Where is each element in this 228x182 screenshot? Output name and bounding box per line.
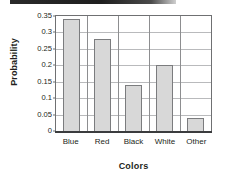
y-tick-label: 0.05 — [37, 111, 52, 119]
bar-series — [56, 16, 211, 131]
x-tick-label-black: Black — [118, 138, 149, 146]
category-divider — [149, 16, 150, 131]
category-divider — [87, 16, 88, 131]
x-tick-label-blue: Blue — [55, 138, 86, 146]
x-tick-label-red: Red — [86, 138, 117, 146]
plot-area: 00.050.10.150.20.250.30.35 — [55, 15, 212, 132]
y-tick-label: 0.25 — [37, 45, 52, 53]
bar-slot — [87, 16, 118, 131]
bar-blue — [63, 19, 81, 131]
x-axis-baseline — [55, 131, 212, 133]
bar-black — [125, 85, 143, 131]
bar-red — [94, 39, 112, 131]
y-tick-label: 0.35 — [37, 12, 52, 20]
y-tick-label: 0.15 — [37, 78, 52, 86]
bar-slot — [180, 16, 211, 131]
category-divider — [118, 16, 119, 131]
y-axis-title: Probability — [9, 17, 19, 107]
category-divider — [180, 16, 181, 131]
bar-other — [187, 118, 205, 131]
x-axis-tick-labels: BlueRedBlackWhiteOther — [55, 138, 212, 146]
bar-white — [156, 65, 174, 131]
y-tick-label: 0.2 — [41, 61, 52, 69]
x-axis-title: Colors — [55, 161, 212, 171]
bar-slot — [56, 16, 87, 131]
bar-chart-figure: Probability 00.050.10.150.20.250.30.35 B… — [0, 0, 228, 182]
x-tick-label-white: White — [149, 138, 180, 146]
y-tick-label: 0 — [48, 127, 52, 135]
bar-slot — [149, 16, 180, 131]
x-tick-label-other: Other — [181, 138, 212, 146]
y-tick-label: 0.1 — [41, 94, 52, 102]
y-tick-label: 0.3 — [41, 29, 52, 37]
bar-slot — [118, 16, 149, 131]
